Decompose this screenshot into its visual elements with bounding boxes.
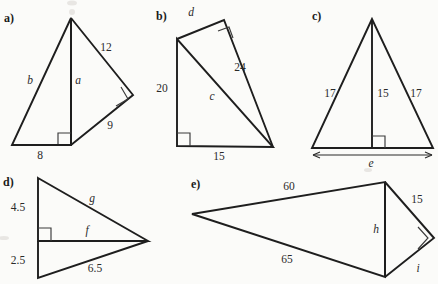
figure-b-label-side-20: 20 — [156, 82, 168, 94]
figure-a-label-altitude-a: a — [75, 74, 81, 86]
figure-a-right-angle-marker-base — [58, 133, 71, 145]
figure-e-label-lower-65: 65 — [281, 253, 293, 265]
figure-d-label-shared-f: f — [85, 224, 90, 237]
figure-e-panel-label: e) — [191, 177, 200, 191]
figure-b-outer-triangle — [177, 39, 273, 147]
figure-d-label-hypotenuse-6-5: 6.5 — [88, 262, 103, 274]
figure-d: d) 4.5 g f 2.5 6.5 — [3, 175, 148, 278]
scan-artifact-top-a2 — [69, 9, 75, 15]
figure-a-label-base-8: 8 — [37, 149, 43, 161]
figure-b-label-side-24: 24 — [234, 61, 246, 73]
figure-a-label-side-12: 12 — [100, 41, 112, 53]
geometry-figures: a) b a 12 9 8 b) d 24 c 20 15 — [0, 0, 438, 284]
figure-e-label-side-i: i — [416, 262, 419, 274]
figure-c-label-left-17: 17 — [324, 87, 336, 99]
figure-b-right-angle-marker-corner — [177, 133, 190, 146]
figure-d-upper-triangle — [38, 178, 148, 241]
figure-c-label-altitude-15: 15 — [377, 87, 389, 99]
figure-e-label-side-15: 15 — [411, 193, 423, 205]
figure-d-panel-label: d) — [3, 175, 14, 189]
figure-b-label-side-d: d — [188, 6, 194, 18]
figure-a-label-side-b: b — [27, 74, 33, 86]
figure-d-label-lower-leg: 2.5 — [11, 254, 26, 266]
figure-b-panel-label: b) — [156, 9, 167, 23]
figure-a-right-angle-marker-outer — [116, 87, 128, 106]
figure-e-label-upper-60: 60 — [283, 180, 295, 192]
figure-b-label-side-c: c — [209, 90, 214, 102]
figure-d-label-hypotenuse-g: g — [89, 192, 95, 205]
figure-c-label-base-e: e — [368, 157, 373, 169]
figure-c-right-angle-marker — [372, 136, 385, 148]
figure-e-label-shared-h: h — [373, 223, 379, 235]
figure-e: e) 60 65 h 15 i — [191, 177, 434, 277]
figure-b-label-base-15: 15 — [213, 150, 225, 162]
figure-a-left-triangle — [12, 18, 71, 145]
figure-a-panel-label: a) — [4, 11, 14, 25]
scan-artifact-left-e — [0, 236, 9, 240]
figure-b-upper-triangle — [177, 20, 273, 147]
scan-artifact-top-a — [67, 1, 77, 6]
figure-c-panel-label: c) — [312, 9, 321, 23]
figure-b: b) d 24 c 20 15 — [156, 6, 273, 162]
figure-d-label-upper-leg: 4.5 — [11, 201, 26, 213]
figure-c: c) 17 15 17 e — [312, 9, 433, 169]
figure-d-right-angle-marker — [38, 228, 51, 241]
figure-a-label-side-9: 9 — [107, 119, 113, 131]
figure-e-right-triangle — [385, 182, 434, 277]
figure-a: a) b a 12 9 8 — [4, 11, 133, 161]
worksheet-page: a) b a 12 9 8 b) d 24 c 20 15 — [0, 0, 438, 284]
figure-c-label-right-17: 17 — [410, 87, 422, 99]
